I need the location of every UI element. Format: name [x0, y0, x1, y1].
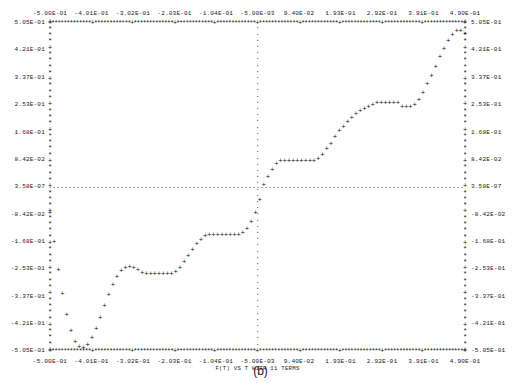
x-tick-label-top: -2.03E-01: [157, 10, 191, 17]
y-tick-label-left: -1.68E-01: [11, 238, 45, 245]
data-marker: +: [56, 266, 61, 274]
y-tick-label-left: 5.05E-01: [15, 19, 46, 26]
data-marker: +: [417, 96, 422, 104]
data-marker: +: [69, 327, 74, 335]
x-tick-label-top: 2.92E-01: [367, 10, 398, 17]
y-tick-label-right: 5.05E-01: [471, 19, 502, 26]
y-tick-label-right: -8.42E-02: [471, 211, 505, 218]
y-tick-label-left: -2.53E-01: [11, 265, 45, 272]
data-marker: +: [257, 196, 262, 204]
y-tick-label-left: 2.53E-01: [15, 101, 46, 108]
y-tick-label-left: -3.37E-01: [11, 293, 45, 300]
data-marker: +: [253, 209, 258, 217]
y-tick-label-right: 8.42E-02: [471, 156, 502, 163]
data-marker: +: [102, 302, 107, 310]
data-marker: +: [249, 218, 254, 226]
x-tick-label-top: 1.93E-01: [325, 10, 356, 17]
ascii-plot-canvas: -5.00E-01-4.01E-01-3.02E-01-2.03E-01-1.0…: [0, 0, 521, 387]
data-marker: +: [60, 290, 65, 298]
x-tick-label-top: -5.00E-01: [33, 10, 67, 17]
y-axis-left-tick-labels: 5.05E-014.21E-013.37E-012.53E-011.68E-01…: [11, 19, 45, 354]
x-tick-label-top: -1.04E-01: [199, 10, 233, 17]
y-tick-label-left: 8.42E-02: [15, 156, 46, 163]
data-marker: +: [65, 311, 70, 319]
data-marker: +: [98, 314, 103, 322]
y-tick-label-right: -3.37E-01: [471, 293, 505, 300]
figure-caption: (b): [0, 364, 521, 378]
frame-glyph-right: +: [463, 346, 467, 354]
y-tick-label-left: -4.21E-01: [11, 320, 45, 327]
frame-glyph-left: +: [48, 346, 52, 354]
x-axis-top-tick-labels: -5.00E-01-4.01E-01-3.02E-01-2.03E-01-1.0…: [33, 10, 481, 17]
y-tick-label-right: 3.58E-07: [471, 183, 502, 190]
y-axis-right-tick-labels: 5.05E-014.21E-013.37E-012.53E-011.68E-01…: [471, 19, 505, 354]
y-tick-label-right: 3.37E-01: [471, 74, 502, 81]
y-tick-label-left: -5.05E-01: [11, 347, 45, 354]
data-marker: +: [52, 238, 57, 246]
data-marker: +: [429, 72, 434, 80]
y-tick-label-left: -8.42E-02: [11, 211, 45, 218]
y-tick-label-right: 2.53E-01: [471, 101, 502, 108]
data-marker: +: [438, 53, 443, 61]
x-tick-label-top: 9.40E-02: [284, 10, 315, 17]
y-tick-label-right: -1.68E-01: [471, 238, 505, 245]
y-tick-label-right: -4.21E-01: [471, 320, 505, 327]
data-marker: +: [421, 89, 426, 97]
data-marker: +: [48, 209, 53, 217]
x-tick-label-top: -5.00E-03: [240, 10, 274, 17]
figure-container: -5.00E-01-4.01E-01-3.02E-01-2.03E-01-1.0…: [0, 0, 521, 387]
data-marker: +: [86, 341, 91, 349]
y-tick-label-right: -2.53E-01: [471, 265, 505, 272]
data-marker: +: [425, 80, 430, 88]
data-marker: +: [111, 281, 116, 289]
y-tick-label-right: 4.21E-01: [471, 46, 502, 53]
data-marker: +: [262, 181, 267, 189]
y-tick-label-left: 1.68E-01: [15, 129, 46, 136]
data-marker: +: [463, 30, 468, 38]
x-tick-label-top: 4.90E-01: [450, 10, 481, 17]
x-tick-label-top: -4.01E-01: [74, 10, 108, 17]
y-tick-label-left: 3.37E-01: [15, 74, 46, 81]
gridline-vertical-glyph: .: [255, 339, 259, 347]
y-tick-label-right: 1.68E-01: [471, 129, 502, 136]
data-marker: +: [90, 334, 95, 342]
y-tick-label-left: 4.21E-01: [15, 46, 46, 53]
data-marker: +: [106, 291, 111, 299]
x-tick-label-top: -3.02E-01: [116, 10, 150, 17]
gridline-horizontal-glyph: .: [460, 182, 464, 190]
x-tick-label-top: 3.91E-01: [408, 10, 439, 17]
data-marker: +: [94, 325, 99, 333]
y-tick-label-left: 3.58E-07: [15, 183, 46, 190]
data-marker: +: [442, 45, 447, 53]
y-tick-label-right: -5.05E-01: [471, 347, 505, 354]
data-marker: +: [433, 63, 438, 71]
